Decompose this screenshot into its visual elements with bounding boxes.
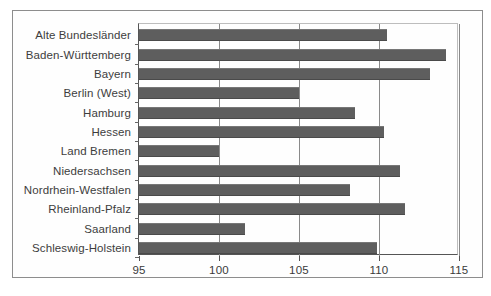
y-tick: [135, 64, 139, 65]
x-tick-100: [219, 256, 220, 261]
category-label: Alte Bundesländer: [0, 29, 131, 41]
x-tick-105: [299, 256, 300, 261]
x-tick-115: [459, 256, 460, 261]
y-tick: [135, 141, 139, 142]
bar: [139, 223, 245, 235]
bar: [139, 184, 350, 196]
bar: [139, 29, 387, 41]
y-tick: [135, 180, 139, 181]
category-label: Baden-Württemberg: [0, 49, 131, 61]
bar: [139, 242, 377, 254]
category-label: Hessen: [0, 126, 131, 138]
x-tick-label-110: 110: [359, 264, 399, 276]
x-tick-110: [379, 256, 380, 261]
y-tick: [135, 122, 139, 123]
chart-figure: Alte BundesländerBaden-WürttembergBayern…: [0, 0, 491, 296]
bar: [139, 165, 400, 177]
bar: [139, 203, 405, 215]
bar: [139, 126, 384, 138]
plot-area: 95100105110115: [138, 23, 458, 255]
category-label: Schleswig-Holstein: [0, 242, 131, 254]
x-tick-label-115: 115: [439, 264, 479, 276]
y-tick: [135, 218, 139, 219]
bar: [139, 68, 430, 80]
category-label: Rheinland-Pfalz: [0, 203, 131, 215]
category-label: Land Bremen: [0, 145, 131, 157]
bar: [139, 145, 219, 157]
y-tick: [135, 238, 139, 239]
x-tick-label-105: 105: [279, 264, 319, 276]
y-tick: [135, 102, 139, 103]
category-label: Niedersachsen: [0, 165, 131, 177]
bar: [139, 87, 299, 99]
category-label: Nordrhein-Westfalen: [0, 184, 131, 196]
bar: [139, 49, 446, 61]
category-label: Saarland: [0, 223, 131, 235]
bar: [139, 107, 355, 119]
gridline-115: [459, 24, 460, 256]
x-tick-label-95: 95: [119, 264, 159, 276]
y-tick: [135, 199, 139, 200]
y-tick: [135, 160, 139, 161]
x-tick-label-100: 100: [199, 264, 239, 276]
y-tick: [135, 44, 139, 45]
category-label: Hamburg: [0, 107, 131, 119]
x-tick-95: [139, 256, 140, 261]
y-tick: [135, 83, 139, 84]
category-label: Berlin (West): [0, 87, 131, 99]
category-label: Bayern: [0, 68, 131, 80]
